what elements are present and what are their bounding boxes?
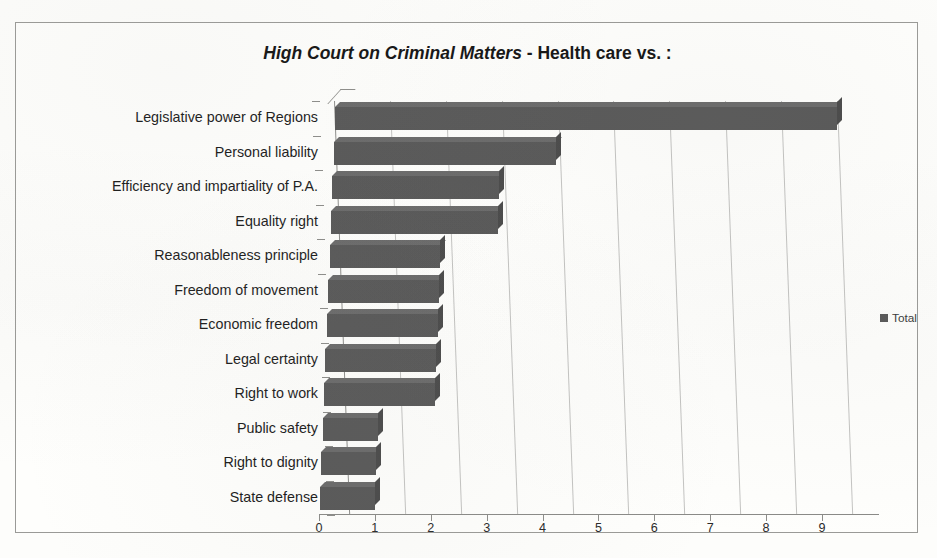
gridline-9 bbox=[837, 101, 853, 515]
bar-3 bbox=[331, 211, 498, 234]
value-label-5: 5 bbox=[583, 521, 613, 535]
bar-top-face bbox=[321, 447, 381, 452]
value-label-2: 2 bbox=[416, 521, 446, 535]
legend-label-total: Total bbox=[892, 311, 917, 325]
category-label-4: Reasonableness principle bbox=[56, 247, 318, 263]
category-label-10: Right to dignity bbox=[56, 454, 318, 470]
bar-side-face bbox=[438, 304, 443, 332]
bar-6 bbox=[327, 314, 438, 337]
value-label-7: 7 bbox=[695, 521, 725, 535]
bar-top-face bbox=[334, 137, 562, 142]
gridline-6 bbox=[669, 101, 685, 515]
category-label-7: Legal certainty bbox=[56, 351, 318, 367]
bar-top-face bbox=[325, 344, 441, 349]
bar-side-face bbox=[378, 408, 383, 436]
category-label-11: State defense bbox=[56, 489, 318, 505]
bar-top-face bbox=[320, 482, 380, 487]
bar-side-face bbox=[499, 166, 504, 194]
bar-top-face bbox=[331, 206, 503, 211]
category-label-8: Right to work bbox=[56, 385, 318, 401]
category-tick bbox=[312, 101, 320, 102]
bar-side-face bbox=[440, 235, 445, 263]
category-tick bbox=[321, 343, 329, 344]
bar-2 bbox=[332, 176, 499, 199]
category-tick bbox=[320, 308, 328, 309]
category-label-6: Economic freedom bbox=[56, 316, 318, 332]
category-axis-labels: Legislative power of RegionsPersonal lia… bbox=[56, 101, 318, 515]
bar-top-face bbox=[332, 171, 504, 176]
category-label-0: Legislative power of Regions bbox=[56, 109, 318, 125]
gridline-5 bbox=[613, 101, 629, 515]
gridline-7 bbox=[725, 101, 741, 515]
category-label-2: Efficiency and impartiality of P.A. bbox=[56, 178, 318, 194]
category-tick bbox=[313, 136, 321, 137]
value-label-0: 0 bbox=[304, 521, 334, 535]
bar-top-face bbox=[323, 413, 383, 418]
bar-9 bbox=[323, 418, 378, 441]
bar-top-face bbox=[335, 102, 842, 107]
value-label-3: 3 bbox=[472, 521, 502, 535]
bar-10 bbox=[321, 452, 376, 475]
bar-11 bbox=[320, 487, 375, 510]
bar-side-face bbox=[375, 477, 380, 505]
chart-title-rest: - Health care vs. : bbox=[522, 43, 672, 63]
chart-legend: Total bbox=[880, 311, 917, 325]
value-label-1: 1 bbox=[360, 521, 390, 535]
gridline-8 bbox=[781, 101, 797, 515]
category-label-1: Personal liability bbox=[56, 144, 318, 160]
bar-side-face bbox=[436, 339, 441, 367]
bar-4 bbox=[330, 245, 441, 268]
bar-1 bbox=[334, 142, 557, 165]
chart-screenshot: High Court on Criminal Matters - Health … bbox=[0, 0, 937, 558]
category-tick bbox=[316, 205, 324, 206]
value-label-4: 4 bbox=[528, 521, 558, 535]
category-tick bbox=[318, 274, 326, 275]
value-label-8: 8 bbox=[751, 521, 781, 535]
category-tick bbox=[315, 170, 323, 171]
bar-side-face bbox=[435, 373, 440, 401]
chart-title: High Court on Criminal Matters - Health … bbox=[16, 43, 919, 64]
category-tick bbox=[327, 515, 335, 516]
bar-top-face bbox=[328, 275, 444, 280]
bar-5 bbox=[328, 280, 439, 303]
category-tick bbox=[317, 239, 325, 240]
bar-side-face bbox=[498, 201, 503, 229]
bar-side-face bbox=[376, 442, 381, 470]
bar-side-face bbox=[556, 132, 561, 160]
chart-frame: High Court on Criminal Matters - Health … bbox=[15, 22, 918, 533]
bar-side-face bbox=[439, 270, 444, 298]
value-label-9: 9 bbox=[807, 521, 837, 535]
legend-swatch-total bbox=[880, 314, 888, 322]
bar-7 bbox=[325, 349, 436, 372]
value-axis-labels: 0123456789 bbox=[319, 521, 879, 541]
bar-side-face bbox=[837, 97, 842, 125]
bar-0 bbox=[335, 107, 837, 130]
category-label-5: Freedom of movement bbox=[56, 282, 318, 298]
value-label-6: 6 bbox=[639, 521, 669, 535]
bar-8 bbox=[324, 383, 435, 406]
plot-area bbox=[319, 101, 879, 515]
category-label-3: Equality right bbox=[56, 213, 318, 229]
bar-top-face bbox=[330, 240, 446, 245]
chart-title-main: High Court on Criminal Matters bbox=[263, 43, 522, 63]
gridline-4 bbox=[558, 101, 574, 515]
bar-top-face bbox=[327, 309, 443, 314]
category-label-9: Public safety bbox=[56, 420, 318, 436]
bar-top-face bbox=[324, 378, 440, 383]
